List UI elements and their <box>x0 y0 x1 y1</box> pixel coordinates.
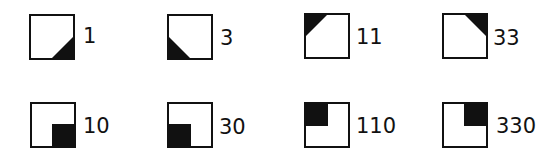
tile-label: 33 <box>493 26 520 50</box>
tile-label: 330 <box>496 114 536 138</box>
triangle-bottom-right-icon <box>29 14 75 60</box>
square-bottom-right-icon <box>30 102 76 148</box>
triangle-top-left-icon <box>304 13 350 59</box>
square-bottom-left-icon <box>167 102 213 148</box>
tile-label: 11 <box>356 25 383 49</box>
tile-11: 11 <box>304 13 350 59</box>
tile-label: 30 <box>219 115 246 139</box>
tile-label: 3 <box>220 26 233 50</box>
tile-33: 33 <box>442 13 488 59</box>
box-square-top-right <box>442 102 488 148</box>
box-triangle-top-left <box>304 13 350 59</box>
box-triangle-top-right <box>442 13 488 59</box>
tile-label: 110 <box>356 114 396 138</box>
tile-1: 1 <box>29 14 75 60</box>
tile-330: 330 <box>442 102 488 148</box>
box-square-top-left <box>304 102 350 148</box>
tile-30: 30 <box>167 102 213 148</box>
triangle-bottom-left-icon <box>167 14 213 60</box>
square-top-right-icon <box>442 102 488 148</box>
box-square-bottom-left <box>167 102 213 148</box>
tile-10: 10 <box>30 102 76 148</box>
triangle-top-right-icon <box>442 13 488 59</box>
tile-110: 110 <box>304 102 350 148</box>
tile-label: 1 <box>83 24 96 48</box>
tile-3: 3 <box>167 14 213 60</box>
tile-label: 10 <box>83 114 110 138</box>
box-triangle-bottom-left <box>167 14 213 60</box>
box-square-bottom-right <box>30 102 76 148</box>
box-triangle-bottom-right <box>29 14 75 60</box>
square-top-left-icon <box>304 102 350 148</box>
